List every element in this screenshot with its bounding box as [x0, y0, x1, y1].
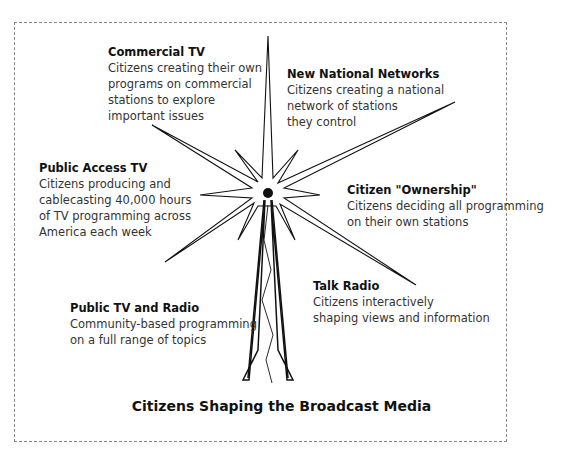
node-text: important issues [108, 108, 262, 124]
node-text: of TV programming across [39, 208, 191, 224]
node-new-national-networks: New National Networks Citizens creating … [287, 66, 444, 130]
node-text: Citizens creating their own [108, 60, 262, 76]
node-text: programs on commercial [108, 76, 262, 92]
node-text: Community-based programming [70, 316, 257, 332]
node-text: on their own stations [347, 214, 544, 230]
node-text: Citizens deciding all programming [347, 198, 544, 214]
node-public-tv-radio: Public TV and Radio Community-based prog… [70, 300, 257, 348]
node-text: on a full range of topics [70, 332, 257, 348]
node-text: they control [287, 114, 444, 130]
node-heading: New National Networks [287, 66, 444, 82]
node-talk-radio: Talk Radio Citizens interactively shapin… [313, 278, 490, 326]
node-heading: Commercial TV [108, 44, 262, 60]
node-text: Citizens interactively [313, 294, 490, 310]
diagram-title: Citizens Shaping the Broadcast Media [0, 398, 563, 414]
node-commercial-tv: Commercial TV Citizens creating their ow… [108, 44, 262, 124]
node-public-access-tv: Public Access TV Citizens producing and … [39, 160, 191, 240]
node-citizen-ownership: Citizen "Ownership" Citizens deciding al… [347, 182, 544, 230]
node-text: Citizens creating a national [287, 82, 444, 98]
node-text: Citizens producing and [39, 176, 191, 192]
node-heading: Public Access TV [39, 160, 191, 176]
node-text: America each week [39, 224, 191, 240]
node-heading: Talk Radio [313, 278, 490, 294]
node-text: shaping views and information [313, 310, 490, 326]
node-text: cablecasting 40,000 hours [39, 192, 191, 208]
node-heading: Citizen "Ownership" [347, 182, 544, 198]
node-text: network of stations [287, 98, 444, 114]
tower-beacon-icon [263, 188, 273, 198]
node-text: stations to explore [108, 92, 262, 108]
node-heading: Public TV and Radio [70, 300, 257, 316]
